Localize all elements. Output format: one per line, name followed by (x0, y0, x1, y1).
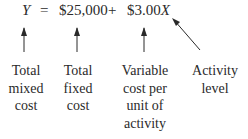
label-line: Total (4, 62, 48, 80)
label-line: Total (58, 62, 98, 80)
arrow-activity-level (174, 20, 200, 50)
label-line: Activity (188, 62, 242, 80)
label-activity-level: Activity level (188, 62, 242, 97)
label-line: activity (116, 115, 174, 133)
label-line: mixed (4, 80, 48, 98)
label-line: cost (58, 97, 98, 115)
label-variable-cost-per-unit: Variable cost per unit of activity (116, 62, 174, 132)
label-line: level (188, 80, 242, 98)
label-line: fixed (58, 80, 98, 98)
label-line: cost per (116, 80, 174, 98)
label-line: Variable (116, 62, 174, 80)
label-total-mixed-cost: Total mixed cost (4, 62, 48, 115)
label-line: cost (4, 97, 48, 115)
label-line: unit of (116, 97, 174, 115)
label-total-fixed-cost: Total fixed cost (58, 62, 98, 115)
